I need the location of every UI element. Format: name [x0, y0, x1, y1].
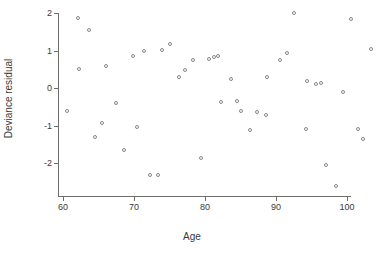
data-point	[264, 113, 268, 117]
data-point	[87, 28, 91, 32]
y-tick-label: 2	[47, 9, 52, 18]
y-tick-mark	[54, 51, 58, 52]
data-point	[324, 163, 328, 167]
x-tick-label: 90	[271, 203, 281, 212]
data-point	[100, 121, 104, 125]
data-point	[334, 184, 338, 188]
x-tick-label: 80	[200, 203, 210, 212]
y-tick-mark	[54, 88, 58, 89]
x-axis-title: Age	[0, 231, 384, 242]
data-point	[177, 75, 181, 79]
data-point	[304, 127, 308, 131]
data-point	[76, 16, 80, 20]
data-point	[255, 110, 259, 114]
data-point	[156, 173, 160, 177]
x-tick-label: 70	[129, 203, 139, 212]
x-tick-mark	[63, 197, 64, 201]
data-point	[229, 77, 233, 81]
data-point	[349, 17, 353, 21]
data-point	[131, 54, 135, 58]
data-point	[142, 49, 146, 53]
x-tick-label: 100	[339, 203, 354, 212]
data-point	[168, 42, 172, 46]
data-point	[265, 75, 269, 79]
x-tick-mark	[205, 197, 206, 201]
y-axis-title: Deviance residual	[2, 0, 16, 196]
data-point	[160, 48, 164, 52]
y-axis-title-text: Deviance residual	[4, 58, 15, 138]
data-point	[248, 128, 252, 132]
data-point	[278, 58, 282, 62]
data-point	[219, 100, 223, 104]
y-tick-label: 1	[47, 46, 52, 55]
data-point	[369, 47, 373, 51]
plot-area: 210-1-2 60708090100	[0, 0, 384, 255]
data-point	[235, 99, 239, 103]
y-tick-mark	[54, 13, 58, 14]
data-point	[199, 156, 203, 160]
data-point	[77, 67, 81, 71]
y-tick-label: -2	[44, 159, 52, 168]
x-tick-mark	[134, 197, 135, 201]
data-point	[65, 109, 69, 113]
data-point	[216, 54, 220, 58]
data-point	[341, 90, 345, 94]
y-axis-line	[58, 13, 59, 196]
data-point	[135, 125, 139, 129]
x-tick-mark	[276, 197, 277, 201]
data-point	[122, 148, 126, 152]
data-point	[148, 173, 152, 177]
data-point	[361, 137, 365, 141]
data-point	[207, 57, 211, 61]
data-point	[292, 11, 296, 15]
x-tick-label: 60	[58, 203, 68, 212]
scatter-plot-figure: 210-1-2 60708090100 Deviance residual Ag…	[0, 0, 384, 255]
data-point	[319, 81, 323, 85]
data-point	[191, 58, 195, 62]
data-point	[314, 82, 318, 86]
data-point	[114, 101, 118, 105]
data-point	[93, 135, 97, 139]
y-tick-mark	[54, 126, 58, 127]
data-point	[305, 79, 309, 83]
data-point	[285, 51, 289, 55]
y-tick-mark	[54, 163, 58, 164]
data-point	[104, 64, 108, 68]
y-tick-label: 0	[47, 84, 52, 93]
x-tick-mark	[347, 197, 348, 201]
y-tick-label: -1	[44, 121, 52, 130]
data-point	[183, 68, 187, 72]
data-point	[356, 127, 360, 131]
data-point	[239, 109, 243, 113]
